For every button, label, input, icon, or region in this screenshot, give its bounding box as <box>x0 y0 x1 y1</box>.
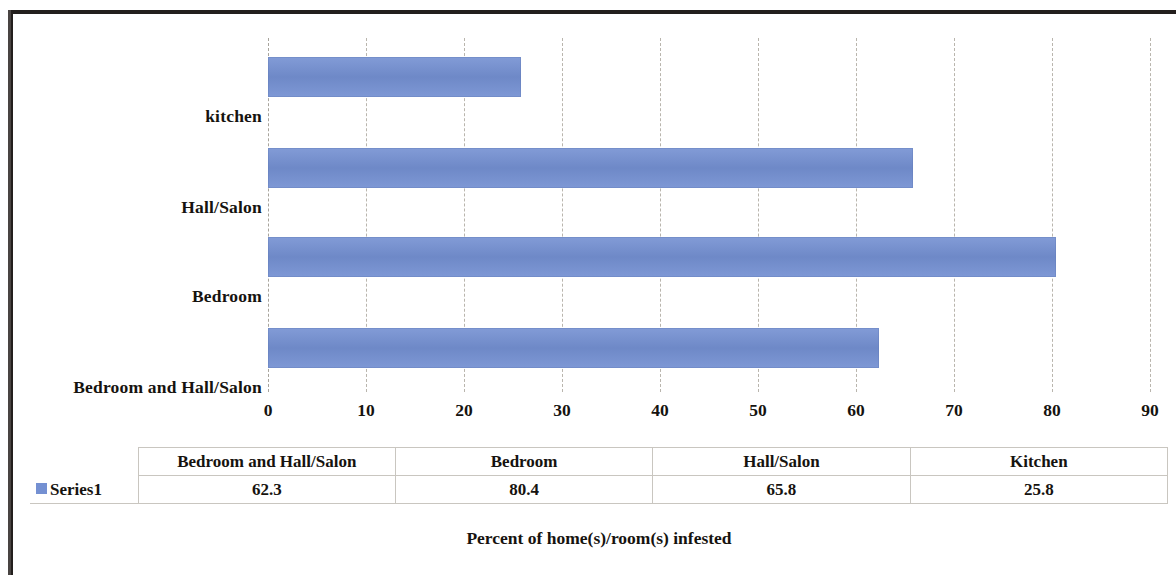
y-axis-category-labels: kitchen Hall/Salon Bedroom Bedroom and H… <box>0 38 262 392</box>
plot-area <box>268 38 1150 392</box>
y-axis-label-kitchen: kitchen <box>2 106 262 127</box>
bar-bedroom[interactable] <box>268 237 1056 277</box>
x-tick-20: 20 <box>455 400 473 421</box>
table-header-hall-salon: Hall/Salon <box>653 448 910 476</box>
x-tick-90: 90 <box>1141 400 1159 421</box>
x-tick-0: 0 <box>264 400 273 421</box>
bar-kitchen[interactable] <box>268 57 521 97</box>
table-header-bedroom-and-hall-salon: Bedroom and Hall/Salon <box>138 448 395 476</box>
table-header-bedroom: Bedroom <box>395 448 652 476</box>
bar-hall-salon[interactable] <box>268 148 913 188</box>
table-value-hall-salon: 65.8 <box>653 476 910 504</box>
x-axis-tick-labels: 0 10 20 30 40 50 60 70 80 90 <box>0 400 1176 426</box>
legend-series1: Series1 <box>30 476 138 504</box>
gridline-70 <box>954 38 955 392</box>
chart-page: kitchen Hall/Salon Bedroom Bedroom and H… <box>0 0 1176 575</box>
gridline-80 <box>1052 38 1053 392</box>
x-axis-title: Percent of home(s)/room(s) infested <box>30 528 1168 549</box>
x-tick-60: 60 <box>847 400 865 421</box>
x-tick-40: 40 <box>651 400 669 421</box>
table-value-bedroom-and-hall-salon: 62.3 <box>138 476 395 504</box>
table-value-kitchen: 25.8 <box>910 476 1167 504</box>
y-axis-label-hall-salon: Hall/Salon <box>2 197 262 218</box>
table-header-kitchen: Kitchen <box>910 448 1167 476</box>
data-table: Bedroom and Hall/Salon Bedroom Hall/Salo… <box>30 447 1168 504</box>
x-tick-70: 70 <box>945 400 963 421</box>
x-tick-50: 50 <box>749 400 767 421</box>
table-row: Series1 62.3 80.4 65.8 25.8 <box>30 476 1168 504</box>
y-axis-label-bedroom: Bedroom <box>2 286 262 307</box>
legend-swatch-icon <box>36 483 47 494</box>
y-axis-label-bedroom-and-hall-salon: Bedroom and Hall/Salon <box>2 377 262 398</box>
table-header-row: Bedroom and Hall/Salon Bedroom Hall/Salo… <box>30 448 1168 476</box>
bar-bedroom-and-hall-salon[interactable] <box>268 328 879 368</box>
x-tick-80: 80 <box>1043 400 1061 421</box>
x-tick-30: 30 <box>553 400 571 421</box>
legend-label: Series1 <box>50 480 102 500</box>
table-value-bedroom: 80.4 <box>395 476 652 504</box>
table-corner-cell <box>30 448 138 476</box>
gridline-90 <box>1150 38 1151 392</box>
x-tick-10: 10 <box>357 400 375 421</box>
